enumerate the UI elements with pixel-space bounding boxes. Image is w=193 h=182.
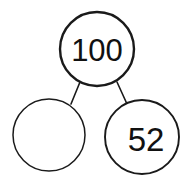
number-bond-canvas: 100 52 (0, 0, 193, 182)
connector-total-to-right-part (117, 82, 127, 104)
part-left-circle[interactable] (13, 99, 85, 171)
total-value-text: 100 (71, 33, 123, 68)
connector-total-to-left-part (71, 82, 80, 104)
number-bond-diagram: 100 52 (0, 0, 193, 182)
part-right-value-text: 52 (128, 121, 165, 158)
